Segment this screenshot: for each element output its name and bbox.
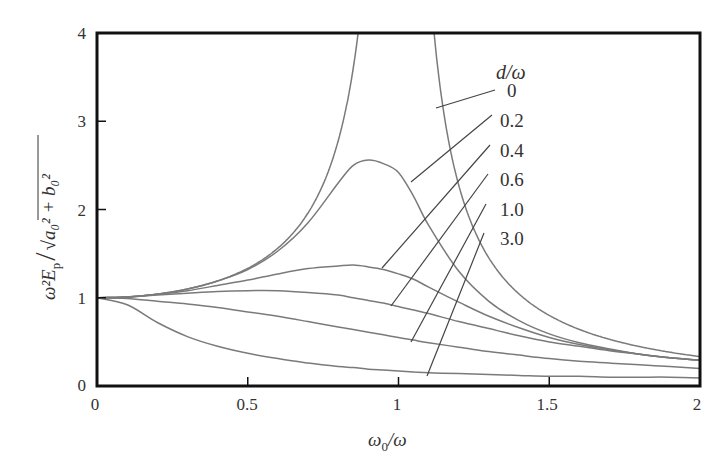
y-tick-1: 1 [78,289,87,308]
curve-d-1-0 [97,298,700,369]
curve-d-0-branch-2 [434,33,700,357]
y-tick-labels: 4 3 2 1 0 [78,24,87,395]
leader-line-0-2 [411,115,492,182]
legend: d/ω 0 0.2 0.4 0.6 1.0 3.0 [496,61,526,249]
legend-label-0.4: 0.4 [500,140,524,161]
y-tick-0: 0 [78,376,87,395]
leader-line-0-6 [391,174,488,306]
y-title-main: ω²E [38,269,59,300]
x-tick-0: 0 [91,395,100,414]
svg-text:ω0/ω: ω0/ω [368,429,407,454]
leader-line-0-4 [382,145,490,268]
x-tick-0.5: 0.5 [236,395,257,414]
y-axis-title: ω²Ep/√a₀² + b₀² [28,135,63,300]
legend-label-0.2: 0.2 [500,110,524,131]
y-title-sub: p [48,263,63,270]
chart-canvas: 4 3 2 1 0 0 0.5 1 1.5 2 ω0/ω ω²Ep/√a₀² +… [0,0,703,464]
y-tick-4: 4 [78,24,87,43]
curve-d-0-2 [97,160,700,360]
y-tick-3: 3 [78,112,87,131]
x-title-rest: /ω [387,429,407,450]
x-title-omega: ω [368,429,381,450]
plot-frame [97,33,700,386]
legend-leader-lines [382,90,495,376]
x-tick-1.5: 1.5 [536,395,557,414]
x-tick-2: 2 [693,395,702,414]
curve-d-0-branch-1 [97,33,358,298]
y-tick-2: 2 [78,201,87,220]
legend-label-0.6: 0.6 [500,169,524,190]
x-tick-1: 1 [393,395,402,414]
legend-label-1.0: 1.0 [500,199,524,220]
legend-label-3.0: 3.0 [500,228,524,249]
leader-line-0 [436,90,495,108]
curve-group [97,33,700,378]
leader-line-3-0 [427,233,484,376]
y-title-denominator: √a₀² + b₀² [38,174,59,251]
x-tick-labels: 0 0.5 1 1.5 2 [91,395,702,414]
svg-text:ω²Ep/√a₀² + b₀²: ω²Ep/√a₀² + b₀² [28,174,63,300]
curve-d-0-4 [97,265,700,360]
legend-label-0: 0 [507,80,517,101]
x-axis-title: ω0/ω [368,429,407,454]
axis-ticks [97,121,549,386]
